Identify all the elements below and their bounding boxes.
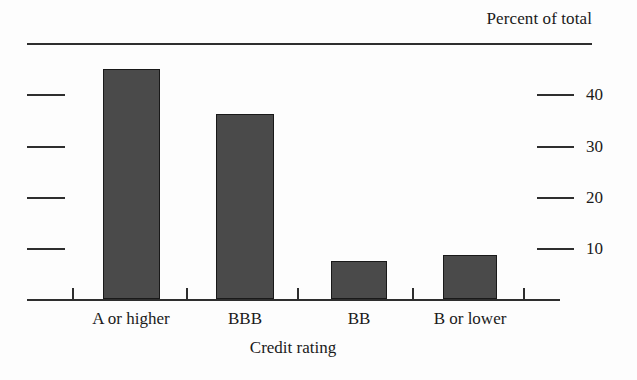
bar-a-or-higher bbox=[103, 69, 160, 299]
y-tick-left-20 bbox=[27, 197, 65, 199]
x-tick-1 bbox=[186, 288, 188, 299]
y-tick-left-10 bbox=[27, 248, 65, 250]
y-tick-label-10: 10 bbox=[586, 240, 603, 257]
y-tick-right-20 bbox=[537, 197, 574, 199]
y-tick-right-30 bbox=[537, 146, 574, 148]
x-axis-line bbox=[27, 299, 560, 301]
x-tick-4 bbox=[523, 288, 525, 299]
y-tick-right-10 bbox=[537, 248, 574, 250]
x-tick-2 bbox=[297, 288, 299, 299]
x-axis-title: Credit rating bbox=[250, 338, 336, 358]
bar-chart: Percent of total 40 30 20 10 A or higher bbox=[0, 0, 637, 380]
y-tick-right-40 bbox=[537, 94, 574, 96]
bar-bb bbox=[331, 261, 387, 299]
x-tick-3 bbox=[412, 288, 414, 299]
x-category-label-b-or-lower: B or lower bbox=[434, 309, 507, 329]
x-tick-0 bbox=[72, 288, 74, 299]
y-tick-label-20: 20 bbox=[586, 189, 603, 206]
plot-area: 40 30 20 10 A or higher BBB BB B or lowe… bbox=[0, 0, 637, 380]
y-tick-label-30: 30 bbox=[586, 138, 603, 155]
x-category-label-bb: BB bbox=[348, 309, 371, 329]
y-tick-left-30 bbox=[27, 146, 65, 148]
y-tick-label-40: 40 bbox=[586, 86, 603, 103]
x-category-label-bbb: BBB bbox=[228, 309, 262, 329]
y-tick-left-40 bbox=[27, 94, 65, 96]
bar-bbb bbox=[216, 114, 274, 299]
bar-b-or-lower bbox=[443, 255, 497, 299]
x-category-label-a-or-higher: A or higher bbox=[92, 309, 169, 329]
